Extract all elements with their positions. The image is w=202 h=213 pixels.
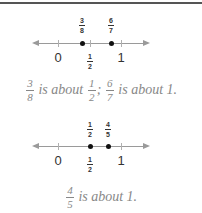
- point-four-fifths: [106, 144, 111, 149]
- label-six-sevenths: 67: [108, 17, 114, 34]
- point-six-sevenths: [109, 41, 114, 46]
- caption-1: 38 is about 12; 67 is about 1.: [0, 78, 202, 103]
- point-three-eighths: [80, 41, 85, 46]
- tick-label-0: 0: [54, 50, 61, 65]
- fraction-3-8: 38: [26, 78, 34, 103]
- point-one-half: [88, 144, 93, 149]
- caption-2: 45 is about 1.: [0, 185, 202, 210]
- denominator: 2: [88, 63, 92, 70]
- tick-label-0: 0: [54, 153, 61, 168]
- tick-label-half: 12: [87, 156, 93, 173]
- tick-half: [90, 40, 91, 47]
- tick-0: [58, 143, 59, 150]
- numerator: 1: [88, 156, 92, 163]
- label-three-eighths: 38: [79, 17, 85, 34]
- numerator: 3: [80, 17, 84, 24]
- arrow-right-icon: [143, 143, 150, 149]
- caption-text: is about 1.: [118, 82, 177, 97]
- caption-text: is about: [38, 82, 83, 97]
- tick-1: [121, 143, 122, 150]
- tick-0: [58, 40, 59, 47]
- caption-text: is about 1.: [78, 189, 137, 204]
- tick-label-1: 1: [117, 50, 124, 65]
- fraction-1-2: 12: [88, 78, 96, 103]
- denominator: 8: [80, 27, 84, 34]
- number-line-2: 12 45 0 12 1: [0, 120, 202, 180]
- tick-label-1: 1: [117, 153, 124, 168]
- fraction-4-5: 45: [66, 185, 74, 210]
- denominator: 5: [106, 131, 110, 138]
- numerator: 1: [88, 53, 92, 60]
- tick-1: [121, 40, 122, 47]
- top-border: [0, 2, 202, 4]
- numerator: 4: [106, 121, 110, 128]
- arrow-right-icon: [143, 40, 150, 46]
- denominator: 2: [88, 131, 92, 138]
- axis-line: [38, 43, 144, 45]
- numerator: 6: [109, 17, 113, 24]
- label-one-half: 12: [87, 121, 93, 138]
- denominator: 2: [88, 166, 92, 173]
- number-line-1: 38 67 0 12 1: [0, 15, 202, 75]
- numerator: 1: [88, 121, 92, 128]
- fraction-6-7: 67: [106, 78, 114, 103]
- label-four-fifths: 45: [105, 121, 111, 138]
- denominator: 7: [109, 27, 113, 34]
- tick-label-half: 12: [87, 53, 93, 70]
